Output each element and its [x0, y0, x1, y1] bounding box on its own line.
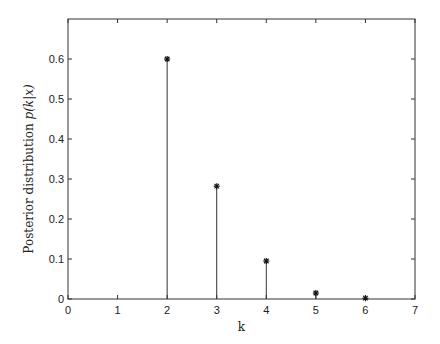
- asterisk-marker-icon: [214, 183, 220, 189]
- x-axis-ticks: 01234567: [65, 19, 418, 316]
- y-tick-label: 0: [58, 293, 64, 305]
- asterisk-marker-icon: [263, 258, 269, 264]
- y-axis-label-math: p(k|x): [22, 84, 36, 119]
- x-tick-label: 7: [412, 304, 418, 316]
- y-tick-label: 0.1: [49, 253, 64, 265]
- data-series: [164, 56, 368, 301]
- y-axis-label-text: Posterior distribution: [22, 119, 36, 253]
- x-tick-label: 6: [362, 304, 368, 316]
- y-tick-label: 0.3: [49, 173, 64, 185]
- y-axis-label: Posterior distribution p(k|x): [22, 84, 36, 254]
- y-tick-label: 0.2: [49, 213, 64, 225]
- stem-chart: 01234567 00.10.20.30.40.50.6 k Posterior…: [0, 0, 440, 344]
- stem-point: [214, 183, 220, 299]
- stem-point: [164, 56, 170, 299]
- x-tick-label: 5: [313, 304, 319, 316]
- x-tick-label: 3: [214, 304, 220, 316]
- stem-point: [313, 290, 319, 299]
- y-axis-ticks: 00.10.20.30.40.50.6: [49, 53, 415, 305]
- x-tick-label: 1: [115, 304, 121, 316]
- asterisk-marker-icon: [313, 290, 319, 296]
- y-tick-label: 0.6: [49, 53, 64, 65]
- stem-point: [362, 295, 368, 301]
- asterisk-marker-icon: [362, 295, 368, 301]
- y-tick-label: 0.5: [49, 93, 64, 105]
- x-tick-label: 4: [263, 304, 269, 316]
- x-tick-label: 2: [164, 304, 170, 316]
- x-axis-label: k: [238, 320, 246, 334]
- stem-point: [263, 258, 269, 299]
- plot-frame: [68, 19, 415, 299]
- y-tick-label: 0.4: [49, 133, 64, 145]
- x-tick-label: 0: [65, 304, 71, 316]
- asterisk-marker-icon: [164, 56, 170, 62]
